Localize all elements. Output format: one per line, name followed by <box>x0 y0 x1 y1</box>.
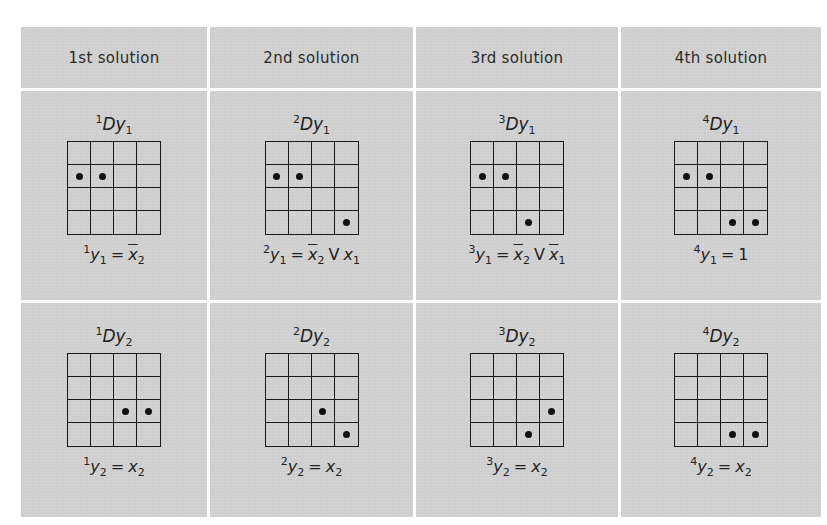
equation-token: 2 <box>335 466 342 479</box>
map-square <box>540 354 563 377</box>
map-square <box>675 400 698 423</box>
map-square <box>91 377 114 400</box>
map-square <box>540 377 563 400</box>
map-square <box>494 165 517 188</box>
header-2nd-solution: 2nd solution <box>210 27 413 88</box>
map-square <box>675 165 698 188</box>
boolean-equation: 4y2=x2 <box>690 455 751 479</box>
equation-token: x <box>735 457 744 476</box>
map-square <box>471 211 494 234</box>
map-title: 1Dy2 <box>95 325 132 353</box>
map-square <box>721 423 744 446</box>
map-square <box>68 211 91 234</box>
map-square <box>91 211 114 234</box>
karnaugh-map-grid <box>674 353 768 447</box>
map-square <box>517 188 540 211</box>
map-square <box>289 165 312 188</box>
map-square <box>114 142 137 165</box>
equation-token: y <box>288 457 297 476</box>
map-square <box>335 211 358 234</box>
map-square <box>266 142 289 165</box>
equation-token: 1 <box>485 254 492 267</box>
map-square <box>698 142 721 165</box>
dot-marker-icon <box>525 431 532 438</box>
map-square <box>517 400 540 423</box>
map-square <box>744 188 767 211</box>
equation-token: x <box>128 245 137 264</box>
map-square <box>540 423 563 446</box>
equation-token: = <box>111 245 124 264</box>
boolean-equation: 3y1=x2Vx1 <box>469 243 566 267</box>
map-square <box>471 354 494 377</box>
map-square <box>744 165 767 188</box>
map-square <box>91 400 114 423</box>
map-square <box>335 165 358 188</box>
map-square <box>137 377 160 400</box>
map-square <box>744 400 767 423</box>
equation-token: y <box>697 457 706 476</box>
map-square <box>335 188 358 211</box>
equation-token: 2 <box>138 254 145 267</box>
map-square <box>471 142 494 165</box>
map-title-main: Dy <box>709 114 732 134</box>
map-square <box>744 423 767 446</box>
map-square <box>68 400 91 423</box>
map-square <box>517 211 540 234</box>
map-cell: 3Dy23y2=x2 <box>416 303 618 517</box>
map-square <box>137 142 160 165</box>
dot-marker-icon <box>343 219 350 226</box>
map-square <box>312 142 335 165</box>
map-square <box>698 188 721 211</box>
map-square <box>68 354 91 377</box>
map-square <box>698 165 721 188</box>
karnaugh-map-grid <box>470 141 564 235</box>
equation-token: 2 <box>541 466 548 479</box>
map-square <box>471 377 494 400</box>
map-title-subscript: 2 <box>323 336 330 349</box>
map-square <box>137 354 160 377</box>
equation-token: x <box>513 245 522 264</box>
dot-marker-icon <box>502 173 509 180</box>
map-square <box>266 400 289 423</box>
map-title-subscript: 1 <box>733 124 740 137</box>
map-title-prefix: 2 <box>293 113 300 126</box>
map-square <box>494 211 517 234</box>
equation-token: y <box>700 245 709 264</box>
map-square <box>137 400 160 423</box>
map-square <box>517 354 540 377</box>
map-square <box>494 188 517 211</box>
map-square <box>114 188 137 211</box>
map-title-subscript: 2 <box>126 336 133 349</box>
map-square <box>289 400 312 423</box>
dot-marker-icon <box>296 173 303 180</box>
map-square <box>721 354 744 377</box>
map-square <box>137 211 160 234</box>
map-square <box>675 142 698 165</box>
map-title-subscript: 1 <box>126 124 133 137</box>
map-title-main: Dy <box>505 114 528 134</box>
map-square <box>540 188 563 211</box>
map-title-main: Dy <box>709 326 732 346</box>
map-square <box>114 377 137 400</box>
map-square <box>114 165 137 188</box>
karnaugh-map-grid <box>67 141 161 235</box>
map-square <box>312 400 335 423</box>
equation-token: 3 <box>469 243 476 256</box>
map-square <box>517 142 540 165</box>
map-title: 4Dy2 <box>702 325 739 353</box>
map-title: 3Dy1 <box>498 113 535 141</box>
map-square <box>698 377 721 400</box>
map-square <box>540 211 563 234</box>
map-square <box>675 211 698 234</box>
map-square <box>517 423 540 446</box>
map-square <box>721 165 744 188</box>
map-square <box>335 423 358 446</box>
map-title-main: Dy <box>300 114 323 134</box>
dot-marker-icon <box>273 173 280 180</box>
map-square <box>744 377 767 400</box>
map-square <box>335 354 358 377</box>
map-square <box>266 423 289 446</box>
map-cell: 3Dy13y1=x2Vx1 <box>416 91 618 300</box>
equation-token: x <box>128 457 137 476</box>
map-square <box>721 377 744 400</box>
